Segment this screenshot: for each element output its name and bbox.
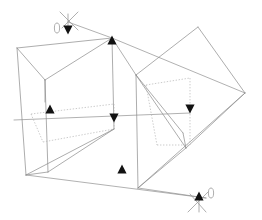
left-hidden-left — [31, 114, 43, 142]
arrow-left-mid-up-icon — [45, 105, 54, 114]
left-hidden-top — [31, 104, 114, 114]
arrow-lower-left-up-icon — [117, 165, 126, 174]
ray-mid-horizontal — [14, 113, 190, 120]
axis-marker-top-left-ellipse-icon — [54, 23, 59, 33]
right-box-inner-fold — [136, 75, 183, 133]
left-box-inner-vertical — [45, 80, 48, 172]
projection-diagram — [0, 0, 262, 220]
right-box-top-left — [136, 27, 198, 75]
ray-lower-long — [26, 175, 206, 198]
left-box-top-back — [17, 38, 112, 48]
left-box-left-vertical — [17, 48, 26, 175]
ray-bottom-right-marker — [138, 188, 206, 198]
diagram-canvas — [0, 0, 262, 220]
right-hidden-top — [146, 78, 190, 85]
left-volume-hidden-edges — [31, 104, 114, 142]
right-box-left-vertical — [136, 75, 138, 188]
left-box-bottom-front — [26, 129, 114, 175]
arrow-right-mid-down-icon — [185, 105, 194, 114]
left-box-lower-diag — [48, 129, 114, 172]
axis-marker-bottom-right-ellipse-icon — [208, 188, 213, 198]
arrow-center-down-icon — [109, 114, 118, 123]
arrow-upper-left-down-icon — [63, 26, 72, 35]
right-box-diag-in — [136, 75, 186, 148]
arrow-bottom-right-up-icon — [194, 192, 203, 201]
left-box-top-front — [17, 48, 45, 80]
left-volume-solid-edges — [17, 38, 114, 175]
left-hidden-bottom — [43, 129, 114, 142]
arrowhead-group — [45, 26, 203, 201]
ray-upper-left-to-top-vertex — [68, 22, 112, 38]
